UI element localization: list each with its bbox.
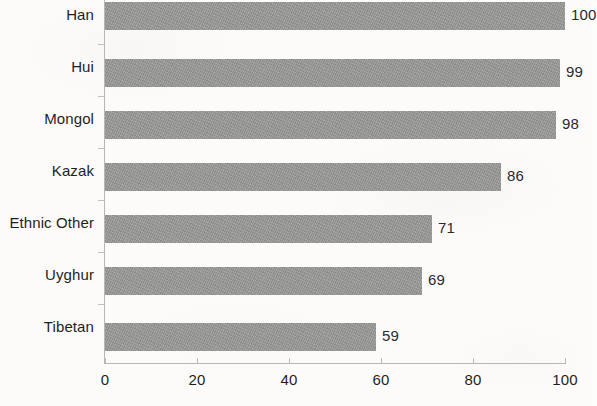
bar-value-tibetan: 59 <box>382 327 399 344</box>
x-axis-tick <box>289 358 290 364</box>
bar-value-han: 100 <box>571 6 597 23</box>
bar-ethnic-other <box>105 215 432 243</box>
bar-value-mongol: 98 <box>562 115 579 132</box>
category-label-tibetan: Tibetan <box>0 318 94 335</box>
bar-han <box>105 2 565 30</box>
x-axis-label-20: 20 <box>188 371 205 388</box>
y-axis-tick <box>98 200 104 201</box>
x-axis-tick <box>105 358 106 364</box>
x-axis-label-100: 100 <box>552 371 578 388</box>
bar-value-kazak: 86 <box>507 167 524 184</box>
y-axis-tick <box>98 96 104 97</box>
category-label-hui: Hui <box>0 58 94 75</box>
category-label-kazak: Kazak <box>0 162 94 179</box>
x-axis-tick <box>473 358 474 364</box>
category-label-ethnic-other: Ethnic Other <box>0 214 94 231</box>
bar-row: 59 <box>105 323 565 351</box>
x-axis-tick <box>381 358 382 364</box>
bar-kazak <box>105 163 501 191</box>
category-label-uyghur: Uyghur <box>0 266 94 283</box>
bar-tibetan <box>105 323 376 351</box>
bar-row: 100 <box>105 2 565 30</box>
bar-row: 71 <box>105 215 565 243</box>
bar-hui <box>105 59 560 87</box>
bar-row: 86 <box>105 163 565 191</box>
bar-uyghur <box>105 267 422 295</box>
bar-value-ethnic-other: 71 <box>438 219 455 236</box>
bar-row: 69 <box>105 267 565 295</box>
y-axis-tick <box>98 252 104 253</box>
y-axis-tick <box>98 44 104 45</box>
category-label-han: Han <box>0 6 94 23</box>
x-axis-label-60: 60 <box>372 371 389 388</box>
bar-row: 99 <box>105 59 565 87</box>
bar-mongol <box>105 111 556 139</box>
x-axis-label-40: 40 <box>280 371 297 388</box>
x-axis-tick <box>197 358 198 364</box>
bar-value-uyghur: 69 <box>428 271 445 288</box>
x-axis-label-0: 0 <box>101 371 110 388</box>
y-axis-tick <box>98 304 104 305</box>
x-axis-line <box>104 363 566 364</box>
y-axis-tick <box>98 148 104 149</box>
bar-row: 98 <box>105 111 565 139</box>
bar-value-hui: 99 <box>566 63 583 80</box>
category-label-mongol: Mongol <box>0 110 94 127</box>
x-axis-tick <box>565 358 566 364</box>
x-axis-label-80: 80 <box>464 371 481 388</box>
